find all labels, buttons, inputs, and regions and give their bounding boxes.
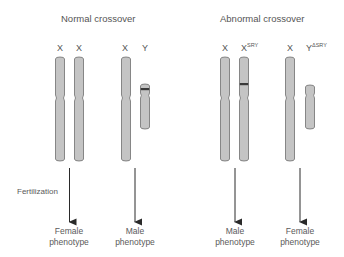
phenotype-line: phenotype <box>200 237 270 248</box>
phenotype-line: Male <box>100 226 170 237</box>
phenotype-line: Female <box>34 226 104 237</box>
chromosome-label: X <box>287 43 293 53</box>
chromosome-label: X <box>76 43 82 53</box>
panel-title-abnormal: Abnormal crossover <box>220 13 304 24</box>
chromosome-label-x-sry: XSRY <box>241 43 258 53</box>
chromosome-x <box>56 57 65 161</box>
chromosome-label: Y <box>142 43 148 53</box>
phenotype-line: phenotype <box>34 237 104 248</box>
sry-band <box>141 88 149 90</box>
chromosome-x <box>75 57 84 161</box>
superscript-sry: SRY <box>247 42 258 48</box>
chromosome-y-delta-sry <box>306 85 315 129</box>
phenotype-line: Male <box>200 226 270 237</box>
phenotype-line: Female <box>265 226 335 237</box>
phenotype-label: Female phenotype <box>34 226 104 248</box>
phenotype-line: phenotype <box>265 237 335 248</box>
phenotype-line: phenotype <box>100 237 170 248</box>
panel-title-normal: Normal crossover <box>61 13 135 24</box>
superscript-delta-sry: ΔSRY <box>312 42 327 48</box>
chromosome-y <box>141 84 150 129</box>
chromosome-label: X <box>222 43 228 53</box>
chromosome-x <box>286 57 295 161</box>
phenotype-label: Male phenotype <box>100 226 170 248</box>
phenotype-label: Female phenotype <box>265 226 335 248</box>
chromosome-x-sry <box>240 57 249 161</box>
chromosome-label: X <box>122 43 128 53</box>
phenotype-label: Male phenotype <box>200 226 270 248</box>
fertilization-label: Fertilization <box>17 187 58 196</box>
sry-band <box>240 83 248 85</box>
chromosome-x <box>221 57 230 161</box>
chromosome-label-y-delta-sry: YΔSRY <box>306 43 327 53</box>
chromosome-x <box>122 57 131 161</box>
diagram-canvas <box>0 0 344 257</box>
chromosome-label: X <box>57 43 63 53</box>
